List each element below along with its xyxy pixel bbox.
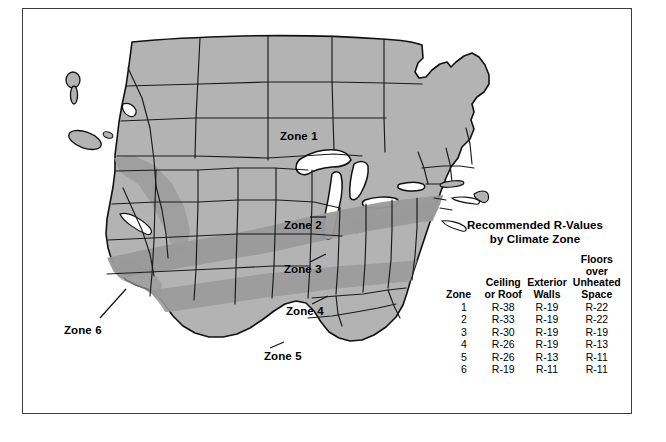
table-row: 3 R-30 R-19 R-19 [446,326,624,338]
cell-zone: 2 [446,313,482,325]
cell-ceiling: R-33 [482,313,524,325]
map-zone-label-4: Zone 4 [286,305,324,317]
cell-floors: R-19 [570,326,624,338]
island-marker-ca [66,127,103,154]
map-zone-label-3: Zone 3 [284,263,322,275]
table-row: 5 R-26 R-13 R-11 [446,351,624,363]
cell-zone: 6 [446,363,482,375]
cell-floors: R-22 [570,301,624,313]
cell-zone: 4 [446,338,482,350]
island-marker-nw-tail [71,86,78,104]
cell-ceiling: R-38 [482,301,524,313]
cell-walls: R-13 [524,351,569,363]
island-marker-ca-2 [102,130,113,139]
cell-zone: 1 [446,301,482,313]
table-row: 1 R-38 R-19 R-22 [446,301,624,313]
cell-ceiling: R-30 [482,326,524,338]
column-header-floors-line1: Floors [570,254,624,266]
column-header-walls-line1: Exterior [524,277,569,289]
column-header-zone-line2: Zone [446,289,480,301]
cell-ceiling: R-26 [482,338,524,350]
r-value-table: Zone Ceiling or Roof Exterior Walls Floo… [446,254,624,375]
r-value-table-head: Zone Ceiling or Roof Exterior Walls Floo… [446,254,624,301]
cell-zone: 3 [446,326,482,338]
cell-walls: R-19 [524,313,569,325]
legend-title-line-2: by Climate Zone [446,232,624,246]
cell-walls: R-19 [524,338,569,350]
cell-ceiling: R-26 [482,351,524,363]
r-value-legend: Recommended R-Values by Climate Zone Zon… [446,218,624,375]
column-header-ceiling-line1: Ceiling [482,277,524,289]
leader-zone-6 [100,289,126,318]
table-row: 6 R-19 R-11 R-11 [446,363,624,375]
column-header-walls: Exterior Walls [524,254,569,301]
cell-walls: R-19 [524,326,569,338]
map-zone-label-2: Zone 2 [284,219,322,231]
column-header-walls-line2: Walls [524,289,569,301]
cell-floors: R-13 [570,338,624,350]
column-header-ceiling: Ceiling or Roof [482,254,524,301]
table-row: 2 R-33 R-19 R-22 [446,313,624,325]
cell-floors: R-22 [570,313,624,325]
map-zone-label-1: Zone 1 [280,130,318,142]
table-header-row: Zone Ceiling or Roof Exterior Walls Floo… [446,254,624,301]
cell-floors: R-11 [570,363,624,375]
legend-title-line-1: Recommended R-Values [446,218,624,232]
column-header-zone: Zone [446,254,482,301]
lake-ontario [398,183,425,192]
map-zone-label-5: Zone 5 [264,350,302,362]
column-header-ceiling-line2: or Roof [482,289,524,301]
cell-walls: R-19 [524,301,569,313]
table-row: 4 R-26 R-19 R-13 [446,338,624,350]
cell-walls: R-11 [524,363,569,375]
r-value-table-body: 1 R-38 R-19 R-22 2 R-33 R-19 R-22 3 R-30… [446,301,624,375]
map-zone-label-6: Zone 6 [64,324,102,336]
column-header-floors: Floors over Unheated Space [570,254,624,301]
cell-floors: R-11 [570,351,624,363]
cell-ceiling: R-19 [482,363,524,375]
column-header-floors-line4: Space [570,289,624,301]
cell-zone: 5 [446,351,482,363]
column-header-floors-line3: Unheated [570,277,624,289]
leader-zone-5 [270,342,284,348]
